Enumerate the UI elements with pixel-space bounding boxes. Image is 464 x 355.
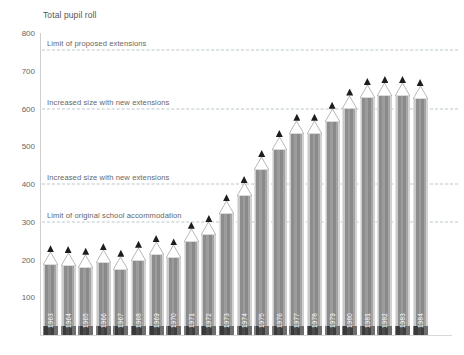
bar-barrel bbox=[289, 134, 304, 335]
x-tick-1966: 1966 bbox=[96, 317, 111, 324]
pencil-tip-icon bbox=[293, 114, 300, 121]
x-tick-1964: 1964 bbox=[61, 317, 76, 324]
y-tick-300: 300 bbox=[22, 217, 35, 226]
y-tick-800: 800 bbox=[22, 29, 35, 38]
pencil-tip-icon bbox=[135, 241, 142, 248]
bar-1981: 1981 bbox=[360, 78, 375, 335]
bar-1969: 1969 bbox=[149, 235, 164, 335]
x-tick-1977: 1977 bbox=[289, 317, 304, 324]
y-tick-600: 600 bbox=[22, 104, 35, 113]
x-tick-1969: 1969 bbox=[149, 317, 164, 324]
pencil-tip-icon bbox=[241, 176, 248, 183]
bar-1970: 1970 bbox=[166, 238, 181, 335]
bar-1968: 1968 bbox=[131, 241, 146, 335]
x-tick-1973: 1973 bbox=[219, 317, 234, 324]
pencil-cone bbox=[78, 255, 93, 268]
pencil-cone bbox=[113, 257, 128, 270]
x-tick-1976: 1976 bbox=[272, 317, 287, 324]
bar-barrel bbox=[254, 170, 269, 335]
pencil-tip-icon bbox=[417, 79, 424, 86]
pencil-cone bbox=[96, 250, 111, 263]
bar-1982: 1982 bbox=[377, 76, 392, 335]
pencil-cone bbox=[325, 109, 340, 122]
pencil-cone bbox=[342, 96, 357, 109]
pencil-tip-icon bbox=[205, 215, 212, 222]
pencil-cone bbox=[149, 242, 164, 255]
bar-1966: 1966 bbox=[96, 243, 111, 335]
pencil-cone bbox=[360, 85, 375, 98]
pencil-cone bbox=[289, 121, 304, 134]
pencil-tip-icon bbox=[117, 250, 124, 257]
bar-1972: 1972 bbox=[201, 215, 216, 335]
pencil-cone bbox=[272, 137, 287, 150]
pencil-cone bbox=[43, 252, 58, 265]
bar-barrel bbox=[395, 96, 410, 335]
bar-barrel bbox=[360, 98, 375, 335]
x-tick-1971: 1971 bbox=[184, 317, 199, 324]
x-tick-1979: 1979 bbox=[325, 317, 340, 324]
bar-series: 1963196419651966196719681969197019711972… bbox=[40, 20, 452, 335]
chart-title: Total pupil roll bbox=[43, 10, 97, 20]
bar-1984: 1984 bbox=[413, 79, 428, 335]
bar-1964: 1964 bbox=[61, 246, 76, 335]
pencil-cone bbox=[219, 201, 234, 214]
pencil-tip-icon bbox=[381, 76, 388, 83]
bar-1976: 1976 bbox=[272, 130, 287, 335]
bar-1965: 1965 bbox=[78, 248, 93, 335]
pencil-cone bbox=[131, 248, 146, 261]
x-axis-baseline bbox=[40, 335, 452, 336]
pencil-cone bbox=[307, 121, 322, 134]
pencil-cone bbox=[254, 157, 269, 170]
bar-barrel bbox=[272, 150, 287, 335]
x-tick-1970: 1970 bbox=[166, 317, 181, 324]
bar-1963: 1963 bbox=[43, 245, 58, 335]
pencil-tip-icon bbox=[223, 194, 230, 201]
bar-1983: 1983 bbox=[395, 76, 410, 335]
bar-1967: 1967 bbox=[113, 250, 128, 335]
bar-1977: 1977 bbox=[289, 114, 304, 335]
pencil-tip-icon bbox=[188, 222, 195, 229]
x-tick-1980: 1980 bbox=[342, 317, 357, 324]
pencil-tip-icon bbox=[364, 78, 371, 85]
y-tick-500: 500 bbox=[22, 142, 35, 151]
pencil-tip-icon bbox=[65, 246, 72, 253]
x-tick-1965: 1965 bbox=[78, 317, 93, 324]
bar-barrel bbox=[377, 96, 392, 335]
bar-1974: 1974 bbox=[237, 176, 252, 335]
pencil-cone bbox=[395, 83, 410, 96]
pencil-tip-icon bbox=[100, 243, 107, 250]
bar-barrel bbox=[342, 109, 357, 336]
bar-1975: 1975 bbox=[254, 150, 269, 335]
x-tick-1972: 1972 bbox=[201, 317, 216, 324]
pencil-tip-icon bbox=[346, 89, 353, 96]
x-tick-1982: 1982 bbox=[377, 317, 392, 324]
pencil-cone bbox=[166, 245, 181, 258]
pencil-tip-icon bbox=[311, 114, 318, 121]
x-tick-1968: 1968 bbox=[131, 317, 146, 324]
pencil-tip-icon bbox=[153, 235, 160, 242]
x-tick-1967: 1967 bbox=[113, 317, 128, 324]
pencil-cone bbox=[413, 86, 428, 99]
y-tick-400: 400 bbox=[22, 180, 35, 189]
pencil-cone bbox=[61, 253, 76, 266]
x-tick-1978: 1978 bbox=[307, 317, 322, 324]
x-tick-1975: 1975 bbox=[254, 317, 269, 324]
plot-area: 100200300400500600700800 Limit of propos… bbox=[40, 20, 452, 340]
x-tick-1963: 1963 bbox=[43, 317, 58, 324]
bar-1979: 1979 bbox=[325, 102, 340, 335]
pencil-tip-icon bbox=[47, 245, 54, 252]
y-tick-200: 200 bbox=[22, 255, 35, 264]
pupil-roll-chart: Total pupil roll 10020030040050060070080… bbox=[0, 0, 464, 355]
x-tick-1983: 1983 bbox=[395, 317, 410, 324]
pencil-cone bbox=[201, 222, 216, 235]
pencil-cone bbox=[237, 183, 252, 196]
pencil-tip-icon bbox=[399, 76, 406, 83]
x-tick-1974: 1974 bbox=[237, 317, 252, 324]
bar-1973: 1973 bbox=[219, 194, 234, 335]
bar-barrel bbox=[325, 122, 340, 335]
pencil-cone bbox=[184, 229, 199, 242]
y-tick-100: 100 bbox=[22, 293, 35, 302]
x-tick-1984: 1984 bbox=[413, 317, 428, 324]
bar-1971: 1971 bbox=[184, 222, 199, 335]
y-tick-700: 700 bbox=[22, 66, 35, 75]
